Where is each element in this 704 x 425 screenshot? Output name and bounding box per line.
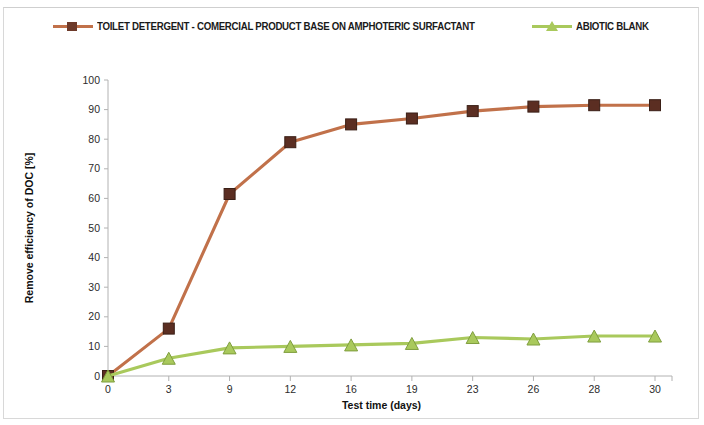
y-tick-label: 80 [88,133,100,145]
y-tick-label: 70 [88,162,100,174]
data-point [528,101,539,112]
x-tick-label: 0 [105,383,111,395]
x-tick-label: 19 [406,383,418,395]
x-tick-label: 9 [227,383,233,395]
x-tick-label: 23 [467,383,479,395]
data-point [224,189,235,200]
y-tick-label: 30 [88,281,100,293]
y-tick-label: 50 [88,222,100,234]
x-tick-label: 26 [528,383,540,395]
chart-svg: 0102030405060708090100 03912161923262830… [0,0,704,425]
data-point [406,113,417,124]
y-tick-label: 90 [88,103,100,115]
data-point [589,100,600,111]
y-tick-label: 60 [88,192,100,204]
plot-area: 0102030405060708090100 03912161923262830… [0,0,704,425]
y-axis-title: Remove efficiency of DOC [%] [23,153,35,304]
x-tick-label: 16 [345,383,357,395]
data-point [163,323,174,334]
x-tick-label: 28 [588,383,600,395]
y-tick-label: 40 [88,251,100,263]
y-axis: 0102030405060708090100 [82,74,108,382]
series-line-abiotic-blank [108,336,655,376]
x-axis-title: Test time (days) [342,399,421,411]
data-point [650,100,661,111]
y-tick-label: 0 [94,370,100,382]
x-tick-label: 30 [649,383,661,395]
y-tick-label: 20 [88,310,100,322]
x-tick-label: 3 [166,383,172,395]
x-axis: 03912161923262830 [105,376,672,395]
x-tick-label: 12 [284,383,296,395]
data-point [467,106,478,117]
y-tick-label: 10 [88,340,100,352]
series-line-toilet-detergent [108,105,655,376]
data-series [102,100,662,382]
y-tick-label: 100 [82,74,100,86]
data-point [285,137,296,148]
data-point [346,119,357,130]
chart-figure: TOILET DETERGENT - COMERCIAL PRODUCT BAS… [0,0,704,425]
